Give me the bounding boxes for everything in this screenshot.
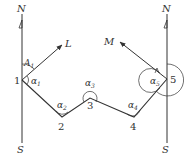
angle-label-alpha3: α3 bbox=[85, 78, 95, 89]
direction-L-label: L bbox=[64, 38, 72, 49]
point-label-2: 2 bbox=[58, 121, 64, 132]
direction-M-arrow bbox=[120, 42, 167, 79]
point-label-3: 3 bbox=[87, 100, 93, 111]
angle-label-A1: A1 bbox=[23, 58, 34, 69]
diagram-svg: N S N S L M A1 α1 α2 α3 α4 α5 bbox=[0, 0, 187, 157]
north-label-left: N bbox=[16, 3, 27, 14]
south-label-left: S bbox=[17, 144, 24, 155]
south-label-right: S bbox=[162, 144, 169, 155]
traverse-diagram: N S N S L M A1 α1 α2 α3 α4 α5 bbox=[0, 0, 187, 157]
point-label-5: 5 bbox=[170, 74, 176, 85]
north-label-right: N bbox=[161, 3, 172, 14]
angle-label-alpha4: α4 bbox=[128, 100, 138, 111]
angle-arc-alpha1 bbox=[27, 76, 29, 84]
angle-label-alpha1: α1 bbox=[31, 76, 41, 87]
point-label-4: 4 bbox=[130, 121, 136, 132]
direction-M-label: M bbox=[103, 36, 115, 47]
angle-label-alpha2: α2 bbox=[57, 100, 67, 111]
angle-label-alpha5: α5 bbox=[150, 76, 160, 87]
point-label-1: 1 bbox=[14, 75, 20, 86]
